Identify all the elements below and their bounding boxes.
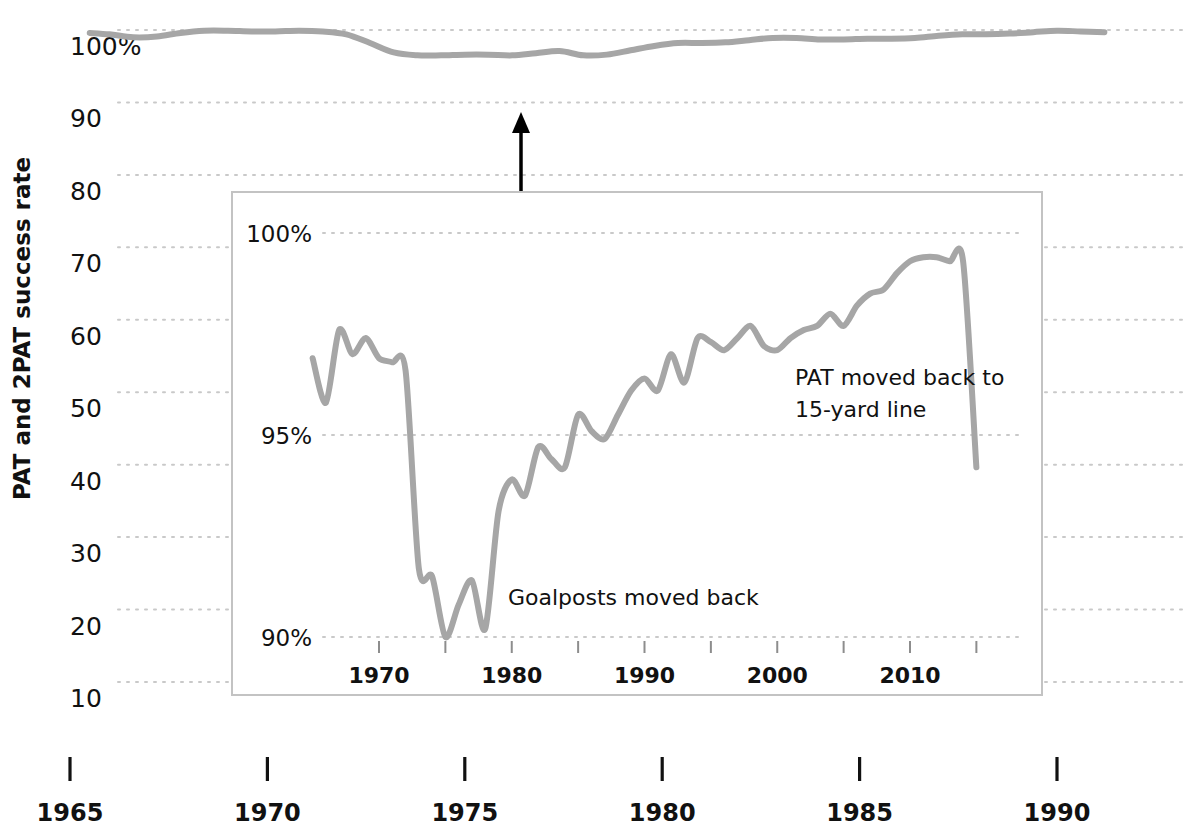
main-y-tick-label: 90 bbox=[70, 104, 102, 133]
y-axis-title: PAT and 2PAT success rate bbox=[9, 157, 35, 500]
main-y-tick-label: 60 bbox=[70, 322, 102, 351]
pat-success-rate-chart: 100%908070605040302010 100%95%90% 197019… bbox=[0, 0, 1187, 830]
inset-x-tick-label: 2000 bbox=[747, 663, 808, 688]
inset-x-tick-label: 1970 bbox=[348, 663, 409, 688]
main-x-tick-label: 1970 bbox=[234, 799, 301, 827]
main-chart-x-tick-marks bbox=[70, 757, 1057, 781]
main-x-tick-label: 1990 bbox=[1024, 799, 1091, 827]
main-y-tick-label: 70 bbox=[70, 249, 102, 278]
main-y-tick-label: 20 bbox=[70, 612, 102, 641]
inset-x-tick-label: 1990 bbox=[614, 663, 675, 688]
inset-x-tick-label: 1980 bbox=[481, 663, 542, 688]
main-y-tick-label: 50 bbox=[70, 394, 102, 423]
main-y-tick-label: 40 bbox=[70, 467, 102, 496]
inset-pointer-arrow bbox=[512, 112, 530, 196]
inset-chart-border bbox=[232, 192, 1042, 695]
main-chart-x-tick-labels: 196519701975198019851990 bbox=[37, 799, 1091, 827]
main-y-tick-label: 80 bbox=[70, 177, 102, 206]
main-x-tick-label: 1975 bbox=[431, 799, 498, 827]
main-x-tick-label: 1980 bbox=[629, 799, 696, 827]
main-x-tick-label: 1985 bbox=[826, 799, 893, 827]
inset-y-tick-label: 90% bbox=[261, 625, 312, 651]
inset-y-tick-label: 95% bbox=[261, 423, 312, 449]
inset-x-tick-label: 2010 bbox=[879, 663, 940, 688]
inset-y-tick-label: 100% bbox=[246, 221, 312, 247]
chart-figure: 100%908070605040302010 100%95%90% 197019… bbox=[0, 0, 1187, 830]
main-y-tick-label: 10 bbox=[70, 684, 102, 713]
pat-moved-back-annotation-line1: PAT moved back to bbox=[795, 365, 1004, 390]
main-x-tick-label: 1965 bbox=[37, 799, 104, 827]
main-y-tick-label: 30 bbox=[70, 539, 102, 568]
goalposts-moved-back-annotation: Goalposts moved back bbox=[508, 585, 759, 610]
main-series-line bbox=[90, 31, 1105, 56]
main-chart-y-tick-labels: 100%908070605040302010 bbox=[70, 32, 141, 713]
inset-chart: 100%95%90% 19701980199020002010 Goalpost… bbox=[232, 192, 1042, 695]
pat-moved-back-annotation-line2: 15-yard line bbox=[795, 397, 926, 422]
